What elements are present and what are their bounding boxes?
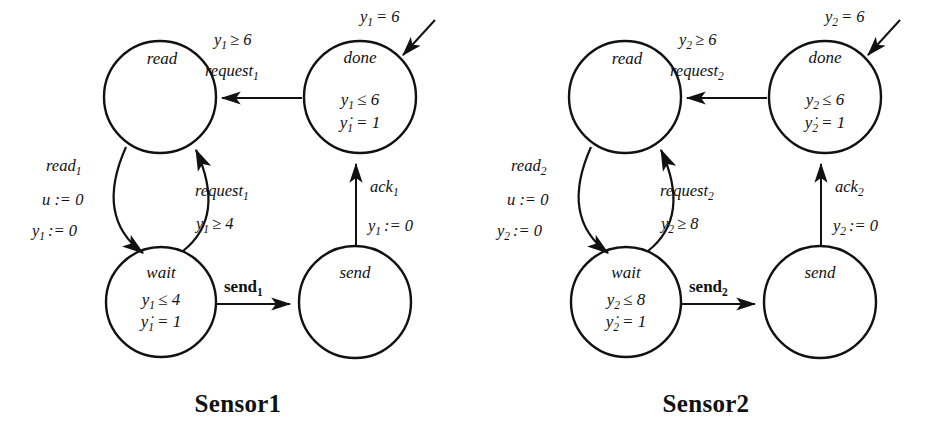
edge-label-wait-read-guard: y1≥ 4 (194, 214, 234, 235)
figure-canvas: read done y1≤ 6 ̇y1= 1 wait y1≤ 4 ̇y1= 1 (0, 0, 930, 431)
edge-wait-to-read[interactable] (183, 150, 208, 251)
edge-label-read-wait-reset-u-2: u := 0 (507, 190, 549, 209)
automaton-sensor2: read done y2≤ 6 ̇y2= 1 wait y2≤ 8 ̇y2= 1 (495, 7, 900, 417)
state-invariant-done-2: ̇y1= 1 (338, 113, 381, 134)
state-label-read: read (147, 49, 178, 68)
edge-label-read-wait-event-2: read2 (511, 156, 547, 177)
edge-label-wait-read-event-2: request2 (660, 181, 714, 202)
edge-label-done-read-guard-2: y2≥ 6 (677, 30, 717, 51)
edge-label-incoming-done-2: y2= 6 (823, 7, 865, 28)
state-node-send-2[interactable]: send (764, 246, 876, 358)
edge-label-done-read-event: request1 (205, 61, 259, 82)
edge-label-send-done-event: ack1 (370, 177, 399, 198)
state-node-done[interactable]: done y1≤ 6 ̇y1= 1 (304, 41, 416, 153)
edge-label-incoming-done: y1= 6 (358, 7, 400, 28)
edge-label-wait-read-guard-2: y2≥ 8 (659, 214, 699, 235)
state-node-read-2[interactable]: read (569, 41, 681, 153)
edge-incoming-done[interactable] (403, 20, 435, 55)
edge-label-read-wait-reset-y-2: y2:= 0 (495, 221, 543, 242)
edge-label-wait-read-event: request1 (195, 181, 249, 202)
state-node-done-2[interactable]: done y2≤ 6 ̇y2= 1 (769, 41, 881, 153)
edge-label-done-read-event-2: request2 (670, 61, 724, 82)
edge-label-wait-send-event: send1 (224, 277, 263, 298)
state-label-read-2: read (612, 49, 643, 68)
state-node-send[interactable]: send (299, 246, 411, 358)
state-invariant-wait-2-1: y2≤ 8 (605, 290, 646, 311)
state-label-wait-2: wait (611, 263, 642, 282)
edge-label-done-read-guard: y1≥ 6 (212, 30, 252, 51)
state-label-done-2: done (808, 48, 842, 67)
state-node-read[interactable]: read (104, 41, 216, 153)
state-invariant-wait-1: y1≤ 4 (140, 290, 181, 311)
state-label-wait: wait (146, 263, 177, 282)
state-label-send: send (339, 263, 371, 282)
state-invariant-done-2-1: y2≤ 6 (804, 90, 845, 111)
automaton-caption-sensor2: Sensor2 (663, 390, 750, 417)
state-label-done: done (343, 48, 377, 67)
edge-label-send-done-event-2: ack2 (835, 177, 864, 198)
automaton-caption-sensor1: Sensor1 (195, 390, 282, 417)
edge-label-read-wait-reset-y: y1:= 0 (30, 221, 78, 242)
edge-label-wait-send-event-2: send2 (689, 277, 728, 298)
state-invariant-wait-2: ̇y1= 1 (139, 312, 182, 333)
edge-label-send-done-reset-2: y2:= 0 (831, 216, 879, 237)
state-invariant-done-1: y1≤ 6 (339, 90, 380, 111)
edge-read-to-wait-2[interactable] (579, 147, 608, 253)
edge-wait-to-read-2[interactable] (648, 150, 673, 251)
edge-label-send-done-reset: y1:= 0 (366, 216, 414, 237)
state-node-wait[interactable]: wait y1≤ 4 ̇y1= 1 (106, 247, 216, 357)
state-invariant-wait-2-2: ̇y2= 1 (604, 312, 647, 333)
state-label-send-2: send (804, 263, 836, 282)
edge-read-to-wait[interactable] (114, 147, 143, 253)
edge-label-read-wait-event: read1 (46, 156, 81, 177)
edge-incoming-done-2[interactable] (868, 20, 900, 55)
automaton-sensor1: read done y1≤ 6 ̇y1= 1 wait y1≤ 4 ̇y1= 1 (30, 7, 435, 417)
state-invariant-done-2-2: ̇y2= 1 (803, 113, 846, 134)
state-node-wait-2[interactable]: wait y2≤ 8 ̇y2= 1 (571, 247, 681, 357)
edge-label-read-wait-reset-u: u := 0 (42, 190, 84, 209)
